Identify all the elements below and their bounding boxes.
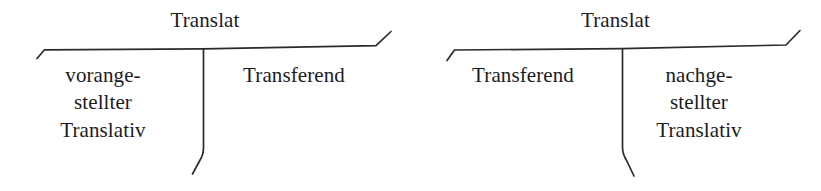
branch-node-transferend-left: Transferend [196,62,392,89]
branch-node-transferend-right: Transferend [428,62,618,89]
branch-node-vorangestellter-translativ: vorange- stellter Translativ [24,62,182,144]
branch-node-nachgestellter-translativ: nachge- stellter Translativ [616,62,782,144]
diagram-preposed-translativ: Translat vorange- stellter Translativ Tr… [0,0,410,191]
diagram-canvas: Translat vorange- stellter Translativ Tr… [0,0,821,191]
root-node-label-left: Translat [0,7,410,34]
root-node-label-right: Translat [410,7,821,34]
diagram-postposed-translativ: Translat Transferend nachge- stellter Tr… [410,0,821,191]
